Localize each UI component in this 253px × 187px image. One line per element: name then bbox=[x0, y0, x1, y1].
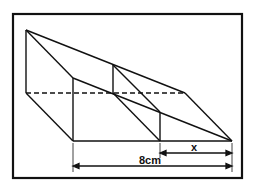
section-top-slant bbox=[113, 65, 160, 112]
base-length-label: 8cm bbox=[139, 154, 161, 166]
x-arrow-right-icon bbox=[226, 151, 232, 156]
front-hypotenuse-edge bbox=[73, 78, 232, 141]
top-left-slant-edge bbox=[26, 30, 73, 78]
bottom-left-slant-edge bbox=[26, 93, 73, 141]
base-arrow-left-icon bbox=[73, 164, 79, 169]
right-slant-edge bbox=[185, 93, 232, 141]
section-bottom-slant bbox=[113, 93, 160, 141]
prism-diagram: x 8cm bbox=[0, 0, 253, 187]
x-label: x bbox=[191, 141, 198, 153]
base-arrow-right-icon bbox=[226, 164, 232, 169]
back-hypotenuse-edge bbox=[26, 30, 185, 93]
